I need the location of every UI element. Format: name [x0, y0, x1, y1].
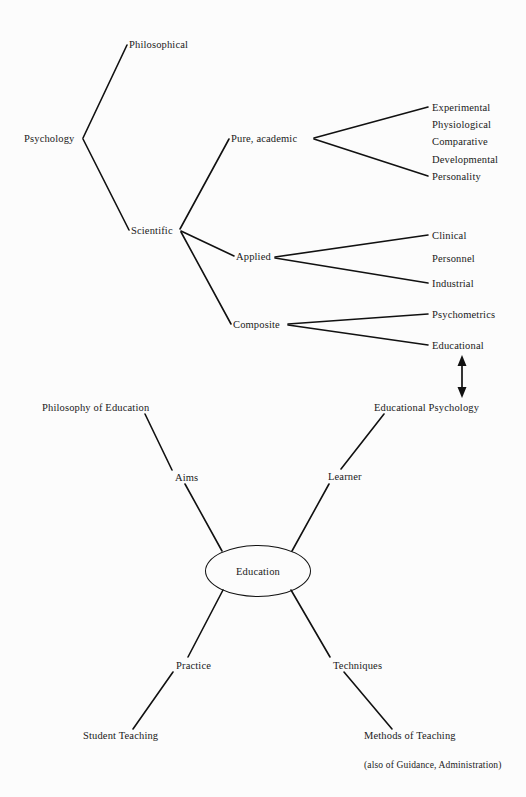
arrow-head-up	[458, 355, 467, 366]
edge-scientific-pure	[180, 139, 229, 229]
edge-practice-student-teaching	[133, 672, 173, 729]
edge-education-practice	[188, 590, 223, 657]
node-pure-academic[interactable]: Pure, academic	[231, 133, 297, 144]
node-practice[interactable]: Practice	[176, 660, 211, 671]
edge-scientific-applied	[181, 231, 234, 256]
node-composite[interactable]: Composite	[233, 319, 280, 330]
edge-philosophy-aims	[145, 414, 172, 470]
edge-psychology-scientific	[83, 139, 129, 230]
edge-edpsych-learner	[341, 414, 384, 469]
edge-applied-industrial	[275, 258, 428, 283]
node-experimental[interactable]: Experimental	[432, 102, 490, 113]
node-comparative[interactable]: Comparative	[432, 136, 488, 147]
node-educational-psychology[interactable]: Educational Psychology	[374, 402, 479, 413]
node-education-center[interactable]: Education	[205, 545, 311, 597]
node-personality[interactable]: Personality	[432, 171, 481, 182]
diagram-canvas: Psychology Philosophical Scientific Pure…	[0, 0, 526, 797]
edge-techniques-methods	[344, 672, 392, 729]
edge-education-techniques	[291, 590, 330, 657]
node-philosophical[interactable]: Philosophical	[129, 39, 188, 50]
node-psychology[interactable]: Psychology	[24, 133, 75, 144]
node-philosophy-of-education[interactable]: Philosophy of Education	[42, 402, 149, 413]
node-education-label: Education	[236, 566, 280, 577]
edge-learner-education	[292, 484, 329, 551]
node-physiological[interactable]: Physiological	[432, 119, 491, 130]
linking-arrow-heads	[458, 355, 467, 398]
node-learner[interactable]: Learner	[328, 471, 362, 482]
edge-aims-education	[185, 484, 222, 551]
edge-scientific-composite	[181, 232, 231, 324]
edge-composite-educational	[288, 325, 428, 345]
node-methods-of-teaching[interactable]: Methods of Teaching	[364, 730, 456, 741]
node-aims[interactable]: Aims	[175, 472, 198, 483]
edge-pure-personality	[314, 139, 428, 176]
node-scientific[interactable]: Scientific	[131, 225, 173, 236]
node-educational[interactable]: Educational	[432, 340, 484, 351]
node-personnel[interactable]: Personnel	[432, 253, 475, 264]
node-clinical[interactable]: Clinical	[432, 230, 466, 241]
edge-applied-clinical	[275, 235, 428, 257]
edge-psychology-philosophical	[83, 45, 127, 138]
node-industrial[interactable]: Industrial	[432, 278, 474, 289]
arrow-head-down	[458, 387, 467, 398]
edge-composite-psychometrics	[288, 314, 428, 324]
edge-pure-experimental	[314, 107, 428, 138]
footnote-guidance-administration: (also of Guidance, Administration)	[364, 760, 502, 771]
node-psychometrics[interactable]: Psychometrics	[432, 309, 495, 320]
node-developmental[interactable]: Developmental	[432, 154, 498, 165]
node-techniques[interactable]: Techniques	[333, 660, 382, 671]
node-applied[interactable]: Applied	[236, 251, 271, 262]
node-student-teaching[interactable]: Student Teaching	[83, 730, 158, 741]
